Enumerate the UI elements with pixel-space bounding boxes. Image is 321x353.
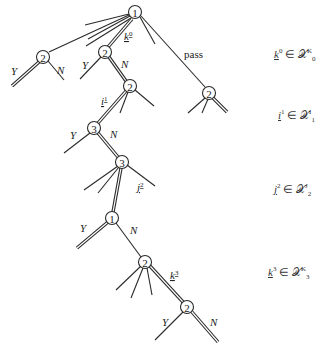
svg-text:3: 3 (119, 157, 125, 169)
label-n2b-n: N (209, 316, 218, 328)
svg-text:2: 2 (184, 302, 190, 314)
label-left-n: N (56, 64, 65, 76)
svg-text:2: 2 (206, 88, 212, 100)
label-left-y: Y (11, 65, 19, 77)
node-n3a: 3 (88, 122, 101, 135)
label-n1-n: N (129, 224, 138, 236)
side-label-k3: k3 ∈ 𝒳K3 (268, 265, 309, 281)
svg-text:2: 2 (40, 52, 46, 64)
label-k0: k0 (124, 30, 133, 42)
node-root: 1 (129, 6, 142, 19)
node-n1: 1 (106, 212, 119, 225)
svg-text:1: 1 (132, 7, 138, 19)
node-n3b: 3 (116, 156, 129, 169)
side-label-j2: j2 ∈ 𝒳J2 (274, 182, 311, 198)
label-n1-y: Y (80, 222, 88, 234)
pass-node-edges (188, 98, 227, 113)
root-edges (49, 14, 205, 87)
label-j2: j2 (135, 181, 144, 193)
svg-text:2: 2 (142, 257, 148, 269)
label-k0-n: N (120, 58, 129, 70)
label-n3a-y: Y (70, 129, 78, 141)
svg-text:1: 1 (109, 213, 115, 225)
game-tree-diagram: 1 2 2 2 2 3 3 1 2 2 Y N Y N pass k0 i1 Y… (0, 0, 321, 353)
node-left: 2 (37, 51, 50, 64)
n3b-edges (84, 165, 155, 212)
svg-text:2: 2 (127, 81, 133, 93)
label-pass: pass (184, 48, 203, 60)
node-i1: 2 (124, 80, 137, 93)
label-i1: i1 (101, 95, 108, 107)
node-k0: 2 (99, 46, 112, 59)
node-n2b: 2 (181, 301, 194, 314)
side-label-i1: i1 ∈ 𝒳I1 (278, 108, 315, 124)
node-n2a: 2 (139, 256, 152, 269)
svg-text:2: 2 (102, 47, 108, 59)
svg-text:3: 3 (91, 123, 97, 135)
node-pass: 2 (203, 87, 216, 100)
side-label-k0: k0 ∈ 𝒳K0 (274, 47, 315, 63)
label-k3: k3 (170, 269, 179, 281)
label-n3a-n: N (109, 128, 118, 140)
